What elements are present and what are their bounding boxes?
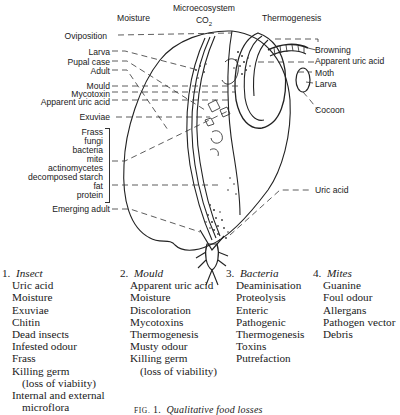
label-uric-acid: Uric acid [315,186,348,195]
category-item: (loss of viability) [120,365,217,377]
category-heading: 3. Bacteria [226,267,304,279]
category-item: Thermogenesis [226,328,304,340]
label-larva-right: Larva [315,80,337,89]
caption-text: Qualitative food losses [166,404,262,415]
category-item: Pathogenic [226,316,304,328]
category-mites: 4. Mites Guanine Foul odour Allergans Pa… [313,267,395,340]
label-apparent-uric-acid: Apparent uric acid [41,98,110,107]
label-cocoon: Cocoon [315,106,345,115]
label-larva: Larva [89,48,111,57]
category-item: Killing germ [2,365,105,377]
category-item: Moisture [120,291,217,303]
category-title: Mould [134,267,163,279]
category-bacteria: 3. Bacteria Deaminisation Proteolysis En… [226,267,304,365]
category-insect: 1. Insect Uric acid Moisture Exuviae Chi… [2,267,105,413]
category-item: Chitin [2,316,105,328]
label-adult: Adult [90,67,110,76]
category-item: Guanine [313,279,395,291]
category-item: Infested odour [2,340,105,352]
category-item: (loss of viabiity) [2,377,105,389]
label-emerging-adult: Emerging adult [52,205,110,214]
header-moisture: Moisture [117,14,150,23]
category-number: 2. [120,267,128,279]
category-item: Proteolysis [226,291,304,303]
co2-subscript: 2 [209,20,212,26]
bracket-item-protein: protein [77,191,103,200]
category-item: Foul odour [313,291,395,303]
category-item: Discoloration [120,304,217,316]
category-item: Apparent uric acid [120,279,217,291]
bracket [105,128,110,203]
category-item: Toxins [226,340,304,352]
caption-number: 1. [153,404,161,415]
category-title: Bacteria [240,267,279,279]
header-co2: CO2 [172,16,236,27]
category-heading: 2. Mould [120,267,217,279]
category-item: Allergans [313,304,395,316]
category-heading: 4. Mites [313,267,395,279]
co2-label: CO [196,15,209,25]
category-number: 4. [313,267,321,279]
category-item: Putrefaction [226,352,304,364]
category-item: Internal and external [2,389,105,401]
category-title: Mites [327,267,352,279]
category-item: Uric acid [2,279,105,291]
category-mould: 2. Mould Apparent uric acid Moisture Dis… [120,267,217,377]
category-item: Killing germ [120,352,217,364]
category-item: Pathogen vector [313,316,395,328]
figure-caption: FIG. 1. Qualitative food losses [134,404,263,415]
caption-prefix: FIG. [134,406,150,415]
header-microecosystem: Microecosystem CO2 [172,4,236,26]
category-number: 1. [2,267,10,279]
label-moth: Moth [315,69,334,78]
category-item: Enteric [226,304,304,316]
category-heading: 1. Insect [2,267,105,279]
category-item: Moisture [2,291,105,303]
category-number: 3. [226,267,234,279]
header-microecosystem-label: Microecosystem [172,4,236,13]
category-item: Thermogenesis [120,328,217,340]
label-apparent-uric-acid-right: Apparent uric acid [315,57,384,66]
label-oviposition: Oviposition [64,32,107,41]
category-item: microflora [2,401,105,413]
header-thermogenesis: Thermogenesis [262,14,321,23]
category-item: Musty odour [120,340,217,352]
category-item: Dead insects [2,328,105,340]
bracket-item-decomposed-starch: decomposed starch [28,173,103,182]
category-item: Frass [2,352,105,364]
category-item: Deaminisation [226,279,304,291]
category-item: Mycotoxins [120,316,217,328]
label-browning: Browning [315,46,351,55]
category-title: Insect [16,267,43,279]
kernel-outline [124,31,291,250]
category-item: Exuviae [2,304,105,316]
category-item: Debris [313,328,395,340]
label-exuviae: Exuviae [79,113,110,122]
